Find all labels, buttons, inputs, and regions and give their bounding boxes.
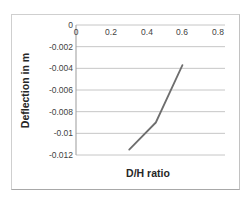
y-tick-label: -0.012: [29, 150, 73, 160]
x-axis-title: D/H ratio: [98, 167, 198, 179]
horizontal-gridlines: [76, 25, 225, 155]
y-axis-title: Deflection in m: [19, 26, 32, 156]
deflection-line-chart: 0 -0.002 -0.004 -0.006 -0.008 -0.01 -0.0…: [0, 0, 248, 199]
data-series-line: [129, 65, 182, 149]
y-tick-label: -0.008: [29, 107, 73, 117]
y-tick-label: -0.006: [29, 85, 73, 95]
x-tick-label: 0.2: [98, 27, 124, 37]
x-tick-label: 0.8: [205, 27, 231, 37]
y-tick-label: -0.004: [29, 63, 73, 73]
y-tick-label: -0.01: [29, 128, 73, 138]
x-tick-label: 0: [63, 27, 89, 37]
x-tick-label: 0.4: [134, 27, 160, 37]
y-tick-label: -0.002: [29, 42, 73, 52]
x-tick-label: 0.6: [169, 27, 195, 37]
